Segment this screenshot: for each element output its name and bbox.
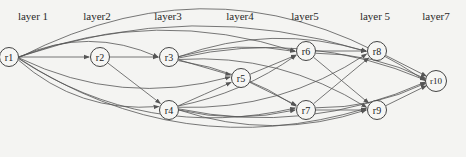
edges-group: [18, 9, 426, 128]
edge-r5-r6: [250, 55, 296, 74]
node-r8[interactable]: r8: [367, 41, 387, 61]
layer-label: layer 5: [360, 10, 390, 22]
node-r3[interactable]: r3: [159, 47, 179, 67]
node-r9[interactable]: r9: [367, 100, 387, 120]
edge-r8-r10: [386, 56, 426, 76]
edge-r5-r7: [250, 82, 296, 105]
edge-r1-r3: [19, 41, 158, 57]
layer-label: layer3: [154, 10, 181, 22]
node-r7[interactable]: r7: [296, 100, 316, 120]
layer-label: layer5: [291, 10, 318, 22]
node-r6[interactable]: r6: [296, 41, 316, 61]
edge-r4-r8: [179, 54, 367, 107]
node-r4[interactable]: r4: [159, 100, 179, 120]
edge-r3-r6: [179, 47, 295, 57]
layer-label: layer2: [83, 10, 110, 22]
edge-r6-r9: [314, 57, 369, 103]
node-r2[interactable]: r2: [90, 47, 110, 67]
layer-label: layer7: [422, 10, 449, 22]
edge-r1-r6: [19, 30, 295, 57]
edge-r4-r7: [179, 110, 295, 117]
edge-r7-r8: [314, 58, 369, 104]
edge-r2-r4: [108, 63, 160, 103]
node-r10[interactable]: r10: [425, 70, 447, 92]
node-r1[interactable]: r1: [0, 47, 19, 67]
layer-label: layer4: [226, 10, 253, 22]
edge-r1-r5: [19, 58, 230, 89]
node-r5[interactable]: r5: [231, 68, 251, 88]
layer-label: layer 1: [18, 10, 48, 22]
